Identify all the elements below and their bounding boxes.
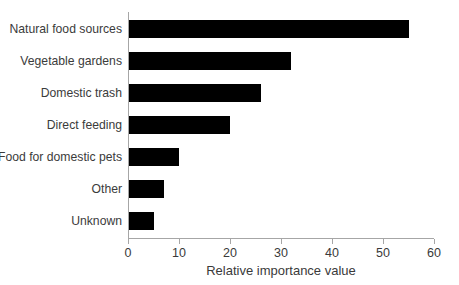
- bar-unknown: [128, 212, 154, 230]
- category-label-natural-food-sources: Natural food sources: [10, 20, 122, 38]
- x-tick-mark-0: [128, 239, 129, 244]
- x-tick-mark-10: [179, 239, 180, 244]
- bar-food-for-domestic-pets: [128, 148, 179, 166]
- x-tick-label-40: 40: [312, 245, 352, 261]
- x-axis-title: Relative importance value: [128, 263, 434, 278]
- category-label-direct-feeding: Direct feeding: [47, 116, 122, 134]
- category-label-domestic-trash: Domestic trash: [41, 84, 122, 102]
- x-tick-label-0: 0: [108, 245, 148, 261]
- category-label-vegetable-gardens: Vegetable gardens: [20, 52, 122, 70]
- bar-other: [128, 180, 164, 198]
- x-tick-mark-60: [434, 239, 435, 244]
- bar-direct-feeding: [128, 116, 230, 134]
- x-tick-mark-30: [281, 239, 282, 244]
- category-label-unknown: Unknown: [71, 212, 122, 230]
- bar-chart: Natural food sources Vegetable gardens D…: [0, 0, 459, 285]
- plot-area: Natural food sources Vegetable gardens D…: [0, 0, 459, 285]
- y-axis-line: [128, 12, 129, 239]
- x-tick-label-20: 20: [210, 245, 250, 261]
- x-tick-mark-20: [230, 239, 231, 244]
- x-tick-label-50: 50: [363, 245, 403, 261]
- category-label-other: Other: [92, 180, 122, 198]
- bar-natural-food-sources: [128, 20, 409, 38]
- x-tick-label-60: 60: [414, 245, 454, 261]
- bar-domestic-trash: [128, 84, 261, 102]
- x-tick-label-10: 10: [159, 245, 199, 261]
- x-tick-label-30: 30: [261, 245, 301, 261]
- category-label-food-for-domestic-pets: Food for domestic pets: [0, 148, 122, 166]
- x-tick-mark-50: [383, 239, 384, 244]
- x-tick-mark-40: [332, 239, 333, 244]
- bar-vegetable-gardens: [128, 52, 291, 70]
